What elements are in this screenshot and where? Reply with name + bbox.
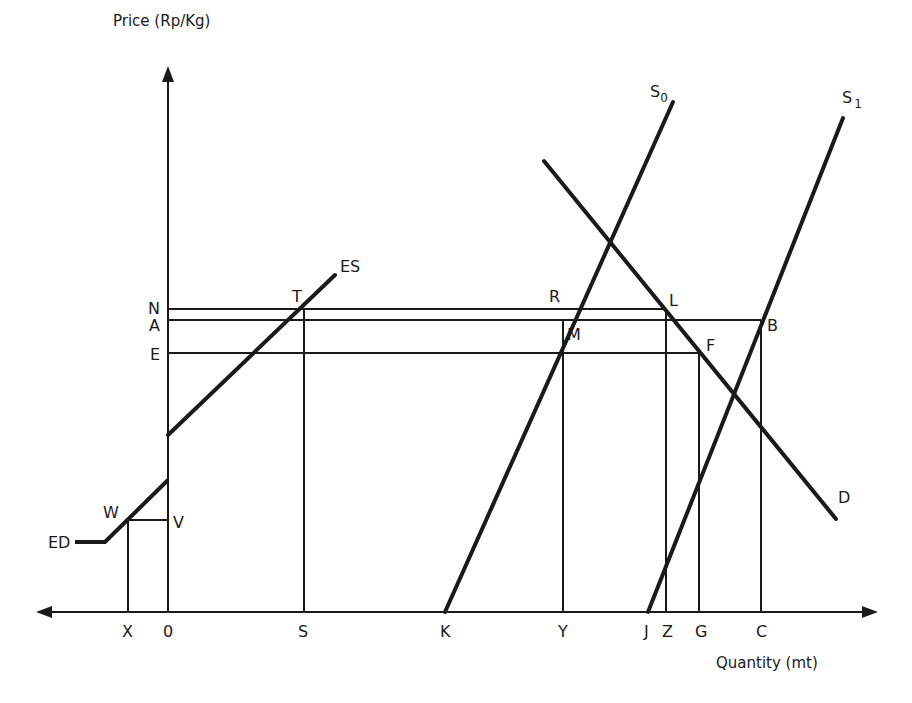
s1-curve <box>648 118 843 612</box>
x-label-g: G <box>695 622 707 641</box>
point-label-l: L <box>669 291 678 310</box>
curve-label-s1: S1 <box>842 88 862 111</box>
ed-curve <box>75 480 168 542</box>
x-label-x: X <box>122 622 133 641</box>
y-axis-arrow-icon <box>162 66 174 82</box>
y-axis-title: Price (Rp/Kg) <box>113 12 210 30</box>
es-curve <box>168 275 335 435</box>
x-label-k: K <box>440 622 451 641</box>
point-label-r: R <box>549 287 560 306</box>
supply-demand-chart: Price (Rp/Kg) Quantity (mt) N A E X 0 S … <box>0 0 912 703</box>
curve-label-ed: ED <box>48 533 70 552</box>
point-label-m: M <box>567 325 581 344</box>
curve-label-d: D <box>838 488 850 507</box>
curve-label-s0: S0 <box>650 82 668 105</box>
x-label-origin: 0 <box>163 622 173 641</box>
x-axis-right-arrow-icon <box>862 606 878 618</box>
curves <box>75 102 843 612</box>
point-label-v: V <box>173 513 184 532</box>
x-axis-title: Quantity (mt) <box>716 654 818 672</box>
point-label-b: B <box>767 316 778 335</box>
point-label-w: W <box>103 503 119 522</box>
x-label-s: S <box>298 622 308 641</box>
point-label-f: F <box>706 336 715 355</box>
d-curve <box>544 161 836 519</box>
curve-label-es: ES <box>340 257 360 276</box>
x-label-z: Z <box>662 622 673 641</box>
x-label-c: C <box>756 622 767 641</box>
y-label-e: E <box>150 345 160 364</box>
point-label-t: T <box>291 287 302 306</box>
axes <box>36 66 878 618</box>
x-label-y: Y <box>557 622 568 641</box>
x-label-j: J <box>643 622 649 641</box>
x-axis-left-arrow-icon <box>36 606 52 618</box>
y-label-a: A <box>149 316 160 335</box>
